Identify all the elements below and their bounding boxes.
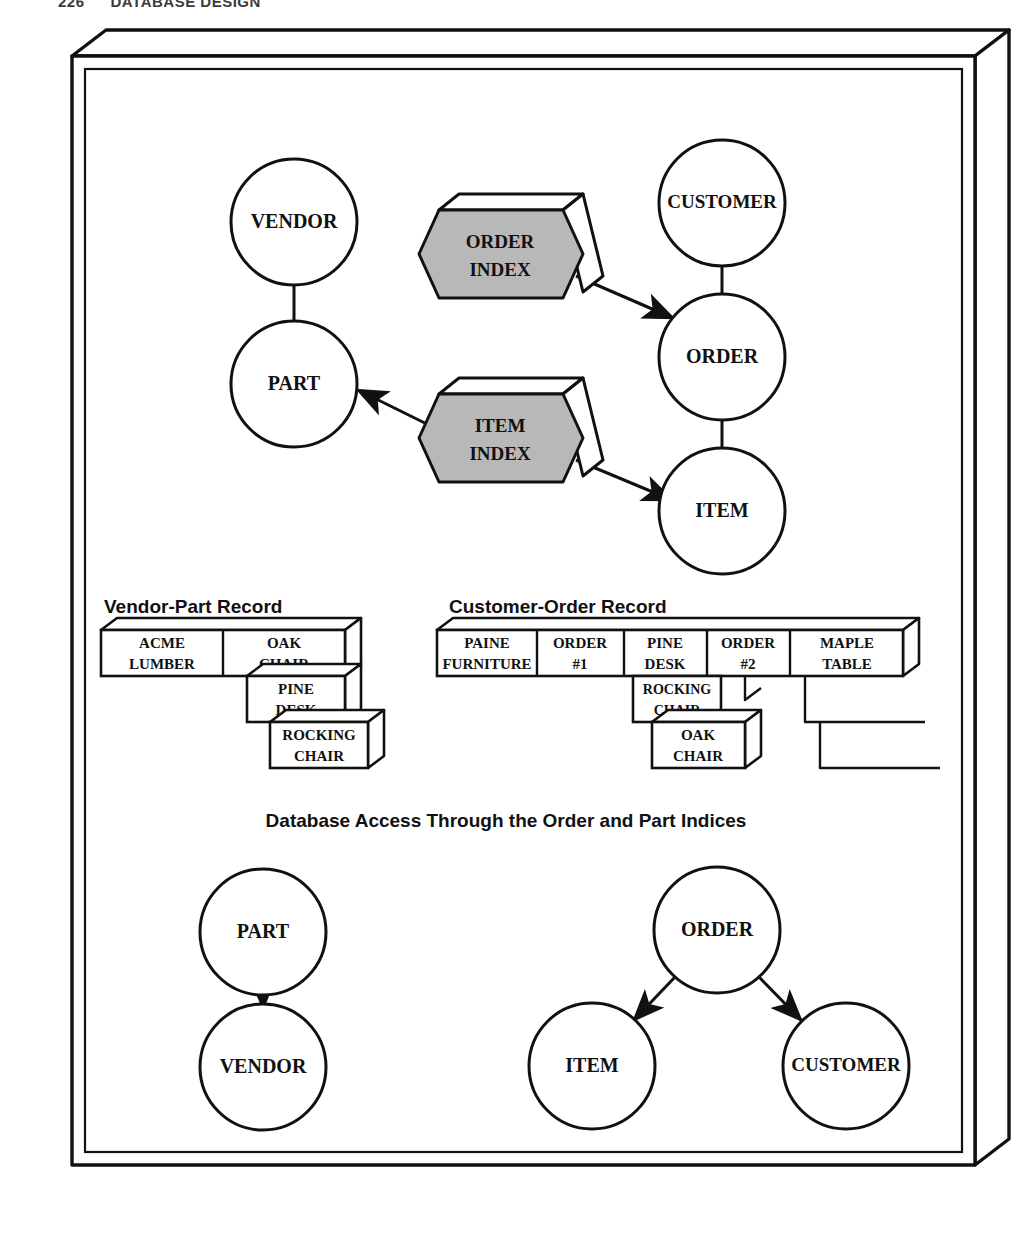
- index-top-face: [439, 194, 583, 210]
- index-label-line2: INDEX: [469, 259, 531, 280]
- entity-label: ITEM: [695, 499, 748, 521]
- entity-order[interactable]: ORDER: [659, 294, 785, 420]
- cell-text-line1: OAK: [267, 635, 302, 651]
- cell-text-line2: LUMBER: [129, 656, 195, 672]
- row-top-face: [247, 664, 361, 676]
- record-title: Customer-Order Record: [449, 596, 667, 617]
- row-top-face: [437, 618, 919, 630]
- cell-text-line2: CHAIR: [673, 748, 723, 764]
- entity-label: VENDOR: [251, 210, 338, 232]
- record-row[interactable]: ROCKING CHAIR: [270, 710, 384, 768]
- cell-text-line1: PINE: [278, 681, 314, 697]
- cell-text-line1: ROCKING: [643, 682, 712, 697]
- entity-order[interactable]: ORDER: [654, 867, 780, 993]
- entity-part[interactable]: PART: [200, 869, 326, 995]
- entity-label: PART: [268, 372, 321, 394]
- record-title: Vendor-Part Record: [104, 596, 282, 617]
- index-label-line2: INDEX: [469, 443, 531, 464]
- entity-item[interactable]: ITEM: [529, 1003, 655, 1129]
- index-label-line1: ITEM: [475, 415, 526, 436]
- cell-text-line2: #2: [741, 656, 756, 672]
- entity-vendor[interactable]: VENDOR: [200, 1004, 326, 1130]
- cell-text-line1: ORDER: [721, 635, 775, 651]
- entity-label: ORDER: [686, 345, 759, 367]
- record-row[interactable]: OAK CHAIR: [652, 710, 761, 768]
- cell-text-line1: MAPLE: [820, 635, 874, 651]
- row-top-face: [101, 618, 361, 630]
- figure-canvas: VENDOR PART CUSTOMER ORDER ITEM: [0, 0, 1034, 1248]
- index-front-face: [419, 210, 583, 298]
- row-top-face: [270, 710, 384, 722]
- cell-text-line1: OAK: [681, 727, 716, 743]
- entity-item[interactable]: ITEM: [659, 448, 785, 574]
- entity-customer[interactable]: CUSTOMER: [659, 140, 785, 266]
- cell-text-line2: FURNITURE: [442, 656, 531, 672]
- row-side-face: [745, 710, 761, 768]
- row-side-face: [368, 710, 384, 768]
- cell-text-line2: TABLE: [822, 656, 872, 672]
- entity-label: PART: [237, 920, 290, 942]
- row-side-face: [903, 618, 919, 676]
- entity-part[interactable]: PART: [231, 321, 357, 447]
- record-row[interactable]: PAINE FURNITURE ORDER #1 PINE DESK ORDER…: [437, 618, 919, 676]
- cell-text-line2: #1: [573, 656, 588, 672]
- frame-right-face: [975, 30, 1009, 1165]
- figure-page: 226DATABASE DESIGN: [0, 0, 1034, 1248]
- entity-label: CUSTOMER: [667, 191, 777, 212]
- section-caption: Database Access Through the Order and Pa…: [266, 810, 747, 831]
- index-front-face: [419, 394, 583, 482]
- entity-label: ITEM: [565, 1054, 618, 1076]
- entity-label: ORDER: [681, 918, 754, 940]
- index-top-face: [439, 378, 583, 394]
- frame-top-face: [72, 30, 1009, 56]
- cell-text-line2: CHAIR: [294, 748, 344, 764]
- entity-label: CUSTOMER: [791, 1054, 901, 1075]
- row-top-face: [652, 710, 761, 722]
- entity-customer[interactable]: CUSTOMER: [783, 1003, 909, 1129]
- entity-vendor[interactable]: VENDOR: [231, 159, 357, 285]
- cell-text-line1: PINE: [647, 635, 683, 651]
- cell-text-line1: PAINE: [464, 635, 510, 651]
- cell-text-line1: ACME: [139, 635, 185, 651]
- entity-label: VENDOR: [220, 1055, 307, 1077]
- index-label-line1: ORDER: [466, 231, 535, 252]
- cell-text-line1: ROCKING: [282, 727, 356, 743]
- cell-text-line2: DESK: [645, 656, 686, 672]
- cell-text-line1: ORDER: [553, 635, 607, 651]
